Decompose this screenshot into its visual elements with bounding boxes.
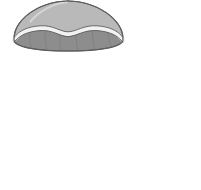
illustration-canvas: Two shells above a water line with a das…	[0, 0, 201, 190]
shell-upper-left	[14, 1, 123, 51]
shell-scene-svg	[0, 0, 201, 190]
